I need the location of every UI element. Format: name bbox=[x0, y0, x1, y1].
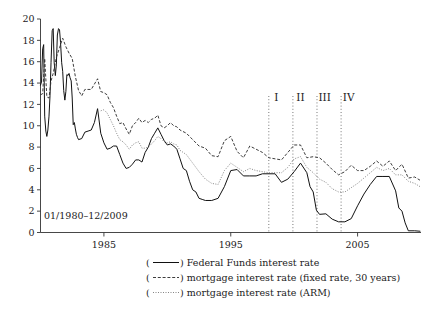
legend-label-ffr: ) Federal Funds interest rate bbox=[180, 257, 320, 268]
legend-label-arm: ) mortgage interest rate (ARM) bbox=[180, 287, 331, 298]
period-label-i: I bbox=[274, 91, 278, 103]
legend-label-fixed: ) mortgage interest rate (fixed rate, 30… bbox=[180, 272, 400, 283]
y-tick-label: 10 bbox=[22, 120, 34, 131]
series-group bbox=[41, 29, 420, 232]
x-tick-group: 198519952005 bbox=[92, 233, 370, 250]
y-tick-label: 14 bbox=[22, 77, 34, 88]
legend-open-paren-3: ( bbox=[146, 287, 150, 298]
x-tick-label: 1985 bbox=[92, 239, 116, 250]
period-label-iii: III bbox=[318, 91, 330, 103]
chart-canvas: 02468101214161820 198519952005 IIIIIIIV … bbox=[0, 0, 434, 312]
period-label-group: IIIIIIIV bbox=[274, 91, 355, 103]
y-tick-group: 02468101214161820 bbox=[22, 13, 40, 238]
legend-open-paren-2: ( bbox=[146, 272, 150, 283]
y-tick-label: 20 bbox=[22, 13, 34, 24]
y-axis: 02468101214161820 bbox=[22, 13, 40, 238]
y-tick-label: 8 bbox=[28, 141, 34, 152]
period-label-iv: IV bbox=[343, 91, 355, 103]
legend: ( ) Federal Funds interest rate ( ) mort… bbox=[146, 257, 400, 298]
date-range-note: 01/1980–12/2009 bbox=[44, 210, 128, 221]
period-divider-group bbox=[269, 96, 341, 233]
legend-open-paren-1: ( bbox=[146, 257, 150, 268]
interest-rate-chart: 02468101214161820 198519952005 IIIIIIIV … bbox=[0, 0, 434, 312]
y-tick-label: 6 bbox=[28, 163, 34, 174]
y-tick-label: 16 bbox=[22, 56, 34, 67]
x-tick-label: 1995 bbox=[219, 239, 243, 250]
y-tick-label: 18 bbox=[22, 35, 34, 46]
series-line-federal-funds bbox=[41, 29, 420, 232]
y-tick-label: 12 bbox=[22, 99, 34, 110]
x-axis: 198519952005 bbox=[41, 233, 422, 250]
x-tick-label: 2005 bbox=[345, 239, 369, 250]
y-tick-label: 2 bbox=[28, 205, 34, 216]
y-tick-label: 4 bbox=[28, 184, 34, 195]
period-label-ii: II bbox=[296, 91, 304, 103]
y-tick-label: 0 bbox=[28, 227, 34, 238]
